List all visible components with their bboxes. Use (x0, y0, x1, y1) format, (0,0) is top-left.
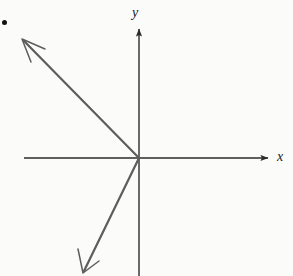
y-axis-label: y (132, 6, 138, 20)
x-axis-label: x (277, 150, 283, 164)
vector-third-quadrant-shaft (84, 158, 139, 271)
bullet-point-icon (2, 20, 7, 25)
vector-diagram-figure: y x (0, 0, 293, 276)
vector-third-quadrant (78, 158, 139, 273)
diagram-canvas (0, 0, 293, 276)
vector-second-quadrant-shaft (24, 41, 139, 158)
vector-second-quadrant (22, 39, 139, 158)
